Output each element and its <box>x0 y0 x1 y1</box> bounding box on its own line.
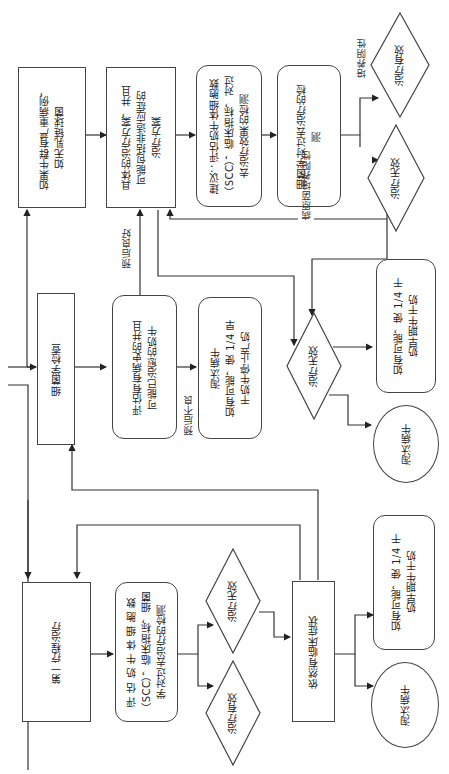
bacterio-exam-box: 细菌学检查 <box>37 293 75 445</box>
suggest-eval-text: 建议：评估奶牛体细胞数 （SCC），临床指标，对过 去治疗效果的检测 <box>207 75 252 197</box>
dry-off-2-text: 如有可能，使 1/4 干 奶早期牛干奶 <box>391 277 421 375</box>
culture-negative-label: 培养阴性 <box>355 38 369 78</box>
dry-off-2-box: 如有可能，使 1/4 干 奶早期牛干奶 <box>376 259 436 393</box>
good-prognosis-label: 预后良好 <box>120 228 134 268</box>
effective-top-text: 治疗有效 <box>393 44 408 86</box>
effective-top-diamond: 治疗有效 <box>370 12 430 118</box>
evaluate-first-text: 评 估 奶 牛 体 细 胞 数 （SCC），临床指标，细菌 学对过去治疗的检测 <box>124 591 169 713</box>
evaluate-first-box: 评 估 奶 牛 体 细 胞 数 （SCC），临床指标，细菌 学对过去治疗的检测 <box>115 582 178 722</box>
severe-herd-text: 如果牛群有严重病例， 如无乳链球菌 <box>37 85 67 190</box>
effective-1-diamond: 治疗有效 <box>205 660 261 766</box>
evaluate-history-text: 评估有有病史的并且 可能已治愈的奶牛 <box>130 320 160 415</box>
specific-plan-text: 具体的治疗方案，并且 可能包括非适应症的 治疗方案 <box>119 85 164 190</box>
first-treatment-text: 第一疗程治疗 <box>49 621 64 684</box>
effective-1-text: 治疗有效 <box>226 692 241 734</box>
first-treatment-box: 第一疗程治疗 <box>22 582 91 722</box>
ineffective-mid-diamond: 治疗无效 <box>286 312 342 420</box>
evaluate-history-box: 评估有有病史的并且 可能已治愈的奶牛 <box>112 295 177 439</box>
dry-off-1-box: 如有可能，使 1/4 干 奶早期牛干奶 <box>373 515 435 650</box>
cull-dry-mid-box: 淘汰病牛 如有可能，使 1/4 早 干奶牛停止产奶 <box>198 297 262 439</box>
cull-2-text: 淘汰病牛 <box>399 423 414 465</box>
cull-1-circle: 淘汰病牛 <box>371 662 439 748</box>
ineffective-top-diamond: 治疗无效 <box>367 124 425 232</box>
cull-2-circle: 淘汰病牛 <box>373 405 439 483</box>
ineffective-top-text: 治疗无效 <box>389 157 404 199</box>
cull-dry-mid-text: 淘汰病牛 如有可能，使 1/4 早 干奶牛停止产奶 <box>208 319 253 417</box>
dry-off-1-text: 如有可能，使 1/4 干 奶早期牛干奶 <box>389 533 419 631</box>
specific-plan-box: 具体的治疗方案，并且 可能包括非适应症的 治疗方案 <box>106 67 176 208</box>
bacterio-exam-text: 细菌学检查 <box>49 343 64 396</box>
pathogen-positive-label: 病原菌培养阳性 <box>300 150 314 220</box>
ineffective-1-text: 治疗无效 <box>226 580 241 622</box>
ineffective-1-diamond: 治疗无效 <box>205 548 261 654</box>
ineffective-mid-text: 治疗无效 <box>307 345 322 387</box>
suggest-eval-box: 建议：评估奶牛体细胞数 （SCC），临床指标，对过 去治疗效果的检测 <box>196 65 262 207</box>
poor-prognosis-label: 预后不良 <box>182 395 196 435</box>
cull-1-text: 淘汰病牛 <box>398 684 413 726</box>
severe-herd-box: 如果牛群有严重病例， 如无乳链球菌 <box>18 67 86 208</box>
still-symptoms-text: 依然有临床症状 <box>306 615 321 689</box>
still-symptoms-box: 依然有临床症状 <box>292 581 335 722</box>
